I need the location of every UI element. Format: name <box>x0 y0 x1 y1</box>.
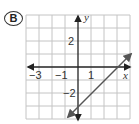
y-axis-label: y <box>83 11 89 23</box>
coordinate-graph: y x −3 −1 1 2 −2 <box>0 0 139 124</box>
x-tick-neg1: −1 <box>55 69 68 81</box>
y-tick-neg2: −2 <box>63 87 76 99</box>
x-axis-label: x <box>122 69 128 81</box>
y-tick-2: 2 <box>68 35 74 47</box>
x-tick-neg3: −3 <box>29 69 42 81</box>
x-tick-1: 1 <box>88 69 94 81</box>
